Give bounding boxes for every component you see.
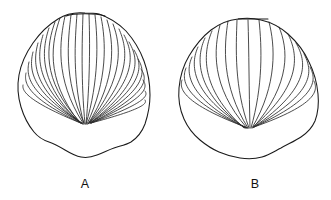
figure-b-label: B: [251, 177, 260, 191]
figure-a-label: A: [81, 177, 90, 191]
fossil-shell-comparison-plate: A B: [0, 0, 331, 200]
plate-canvas: A B: [0, 0, 331, 200]
